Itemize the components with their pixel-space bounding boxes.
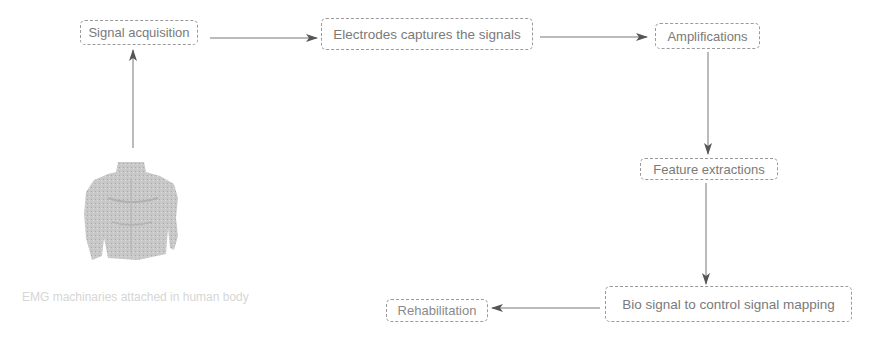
node-signal-mapping: Bio signal to control signal mapping xyxy=(605,286,852,322)
node-rehabilitation: Rehabilitation xyxy=(386,299,488,322)
body-caption: EMG machinaries attached in human body xyxy=(22,290,312,304)
node-label: Electrodes captures the signals xyxy=(333,27,521,42)
node-electrodes: Electrodes captures the signals xyxy=(321,18,533,50)
node-signal-acquisition: Signal acquisition xyxy=(80,20,198,45)
node-label: Signal acquisition xyxy=(88,25,189,40)
human-torso-icon xyxy=(78,158,188,268)
node-label: Feature extractions xyxy=(653,162,764,177)
node-label: Bio signal to control signal mapping xyxy=(622,297,834,312)
node-label: Amplifications xyxy=(667,29,747,44)
node-feature-extractions: Feature extractions xyxy=(640,158,778,180)
node-amplifications: Amplifications xyxy=(655,23,760,49)
node-label: Rehabilitation xyxy=(398,303,477,318)
